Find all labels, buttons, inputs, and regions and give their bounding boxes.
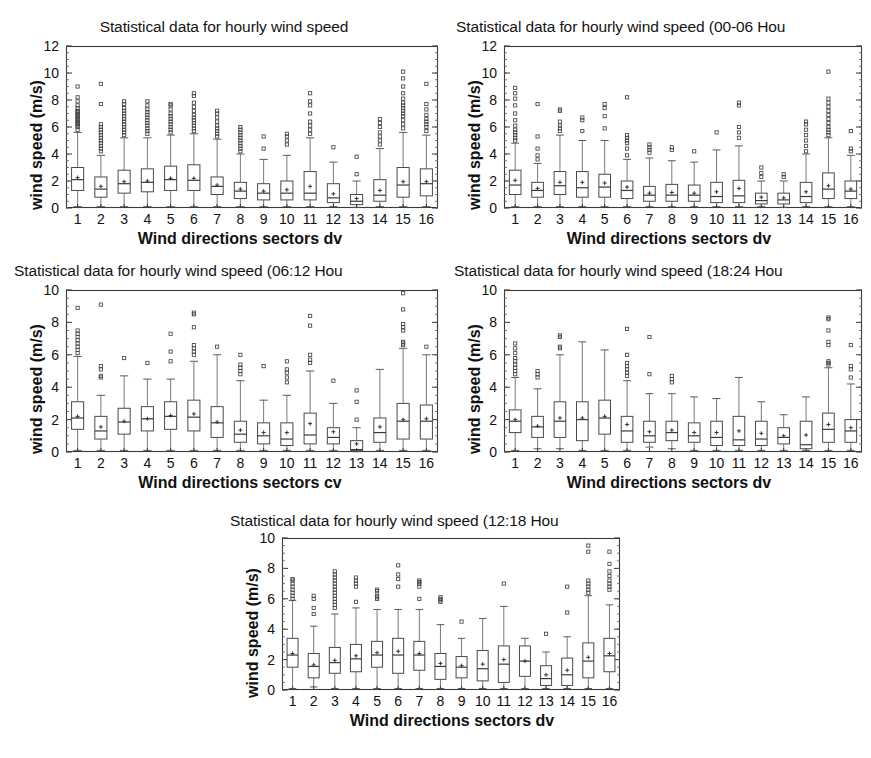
x-tick-label: 7 (415, 693, 423, 709)
x-tick-label: 5 (167, 455, 175, 471)
box-12-18-sector-11 (498, 582, 509, 688)
box-18-24-sector-14 (800, 397, 812, 450)
box-18-24-sector-12 (755, 402, 767, 451)
plot-area-12-18: 024681012345678910111213141516 (282, 538, 620, 690)
y-tick-label: 0 (51, 200, 59, 216)
y-tick-label: 8 (267, 560, 275, 576)
box-18-24-sector-4 (576, 342, 588, 451)
box-06-12-sector-6 (188, 311, 200, 450)
panel-title-all-hours: Statistical data for hourly wind speed (14, 18, 434, 36)
y-axis-label-06-12: wind speed (m/s) (28, 314, 46, 464)
box-00-06-sector-11 (733, 101, 745, 207)
box-12-18-sector-15 (583, 544, 594, 688)
plot-area-all-hours: 02468101212345678910111213141516 (66, 46, 438, 208)
box-18-24-sector-1 (509, 342, 521, 451)
x-tick-label: 15 (821, 211, 837, 227)
box-all-hours-sector-11 (304, 92, 316, 207)
box-all-hours-sector-10 (281, 132, 293, 207)
box-all-hours-sector-3 (118, 100, 130, 207)
x-tick-label: 1 (511, 455, 519, 471)
y-tick-label: 10 (481, 282, 497, 298)
x-tick-label: 3 (331, 693, 339, 709)
x-tick-label: 1 (511, 211, 519, 227)
box-00-06-sector-7 (644, 143, 656, 207)
y-tick-label: 0 (51, 444, 59, 460)
box-12-18-sector-13 (541, 632, 552, 688)
x-tick-label: 14 (798, 211, 814, 227)
box-00-06-sector-16 (845, 129, 857, 206)
box-00-06-sector-2 (532, 102, 544, 206)
box-06-12-sector-4 (141, 361, 153, 450)
x-tick-label: 2 (310, 693, 318, 709)
y-tick-label: 2 (267, 652, 275, 668)
box-00-06-sector-12 (755, 166, 767, 207)
x-tick-label: 11 (732, 211, 747, 227)
box-06-12-sector-14 (374, 369, 386, 450)
x-tick-label: 14 (798, 455, 814, 471)
x-tick-label: 12 (754, 211, 770, 227)
y-axis-label-00-06: wind speed (m/s) (466, 70, 484, 220)
y-tick-label: 2 (51, 412, 59, 428)
y-tick-label: 10 (43, 65, 59, 81)
y-tick-label: 8 (51, 92, 59, 108)
x-axis-label-18-24: Wind directions sectors dv (474, 474, 864, 492)
x-tick-label: 16 (602, 693, 618, 709)
x-tick-label: 15 (395, 211, 411, 227)
x-tick-label: 8 (236, 455, 244, 471)
x-tick-label: 5 (373, 693, 381, 709)
x-tick-label: 14 (372, 455, 388, 471)
x-tick-label: 6 (190, 211, 198, 227)
box-00-06-sector-4 (576, 116, 588, 207)
y-tick-label: 4 (51, 146, 59, 162)
y-tick-label: 4 (267, 621, 275, 637)
box-12-18-sector-7 (414, 579, 425, 689)
x-tick-label: 16 (843, 211, 859, 227)
plot-area-18-24: 024681012345678910111213141516 (504, 290, 862, 452)
box-18-24-sector-8 (666, 374, 678, 449)
wind-speed-boxplot-figure: Statistical data for hourly wind speed w… (0, 0, 871, 758)
box-18-24-sector-9 (688, 397, 700, 450)
box-00-06-sector-15 (823, 70, 835, 207)
x-tick-label: 6 (190, 455, 198, 471)
x-tick-label: 3 (120, 455, 128, 471)
y-tick-label: 12 (43, 38, 59, 54)
x-tick-label: 13 (776, 455, 792, 471)
boxplot-axes-12-18: 024681012345678910111213141516 (282, 538, 620, 690)
box-00-06-sector-6 (621, 96, 633, 207)
x-tick-label: 2 (534, 455, 542, 471)
y-tick-label: 10 (43, 282, 59, 298)
x-tick-label: 5 (601, 211, 609, 227)
box-12-18-sector-10 (477, 619, 488, 689)
x-tick-label: 15 (395, 455, 411, 471)
x-tick-label: 15 (821, 455, 837, 471)
x-tick-label: 16 (843, 455, 859, 471)
y-tick-label: 0 (489, 444, 497, 460)
x-tick-label: 4 (143, 211, 151, 227)
x-tick-label: 13 (349, 455, 365, 471)
box-18-24-sector-11 (733, 377, 745, 450)
x-tick-label: 8 (437, 693, 445, 709)
x-tick-label: 13 (349, 211, 365, 227)
box-06-12-sector-9 (258, 365, 270, 451)
panel-title-18-24: Statistical data for hourly wind speed (… (454, 262, 871, 280)
x-axis-label-all-hours: Wind directions sectors dv (40, 230, 440, 248)
x-tick-label: 10 (475, 693, 491, 709)
box-all-hours-sector-4 (141, 100, 153, 207)
x-tick-label: 3 (556, 455, 564, 471)
x-tick-label: 11 (303, 211, 318, 227)
box-12-18-sector-5 (372, 588, 383, 688)
box-18-24-sector-15 (823, 316, 835, 450)
y-axis-label-all-hours: wind speed (m/s) (28, 70, 46, 220)
box-12-18-sector-6 (393, 564, 404, 689)
x-tick-label: 3 (120, 211, 128, 227)
x-tick-label: 1 (289, 693, 297, 709)
box-00-06-sector-10 (711, 131, 723, 207)
y-tick-label: 4 (489, 146, 497, 162)
plot-area-00-06: 02468101212345678910111213141516 (504, 46, 862, 208)
y-tick-label: 6 (51, 347, 59, 363)
x-tick-label: 13 (776, 211, 792, 227)
box-06-12-sector-16 (420, 345, 432, 450)
x-tick-label: 16 (419, 455, 435, 471)
x-tick-label: 10 (279, 455, 295, 471)
box-all-hours-sector-15 (397, 70, 409, 207)
